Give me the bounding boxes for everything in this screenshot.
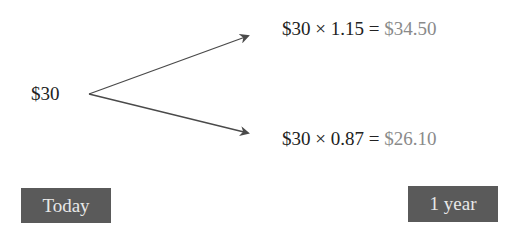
down-expression: $30 × 0.87 = bbox=[282, 128, 384, 149]
up-arrow bbox=[89, 36, 248, 94]
up-result: $34.50 bbox=[384, 18, 436, 39]
down-arrow bbox=[89, 94, 248, 133]
up-outcome: $30 × 1.15 = $34.50 bbox=[282, 18, 436, 40]
start-value: $30 bbox=[31, 83, 60, 105]
today-label: Today bbox=[21, 188, 111, 223]
one-year-label: 1 year bbox=[408, 186, 498, 222]
down-outcome: $30 × 0.87 = $26.10 bbox=[282, 128, 436, 150]
down-result: $26.10 bbox=[384, 128, 436, 149]
up-expression: $30 × 1.15 = bbox=[282, 18, 384, 39]
